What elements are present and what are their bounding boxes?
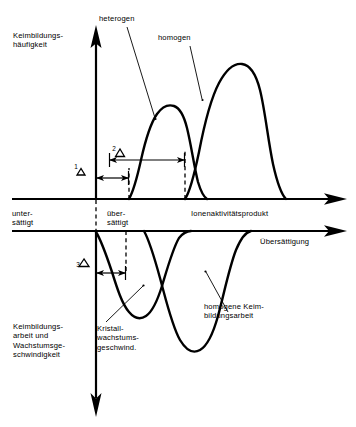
curve-label-heterogen: heterogen (99, 14, 135, 23)
delta3-triangle-icon (79, 259, 89, 267)
curve-label-homogen: homogen (158, 33, 191, 42)
delta1-label: 1 (74, 160, 78, 169)
lower-ordinate-label: Keimbildungs- arbeit und Wachstumsge- sc… (13, 322, 65, 360)
zone-label-supersaturated: über- sättigt (107, 209, 128, 228)
nucleation-diagram: Keimbildungs- häufigkeit heterogen homog… (0, 0, 356, 427)
delta1-subscript: 1 (74, 163, 78, 170)
upper-abscissa-axis (12, 193, 347, 205)
leader-heterogen (127, 27, 157, 120)
delta3-subscript: 3 (76, 261, 80, 268)
curve-homogen (185, 64, 286, 199)
delta2-triangle-icon (116, 149, 125, 157)
measure-delta2 (109, 153, 185, 167)
figure-canvas (0, 0, 356, 427)
measure-delta1 (96, 171, 129, 185)
delta2-label: 2 (112, 142, 116, 151)
lower-abscissa-label: Übersättigung (260, 237, 309, 246)
curve-heterogen (129, 105, 207, 199)
upper-ordinate-axis (91, 25, 102, 199)
delta3-label: 3 (76, 258, 80, 267)
curve-kristallwachstum (96, 231, 191, 318)
lower-abscissa-axis (12, 225, 347, 237)
zone-label-undersaturated: unter- sättigt (12, 209, 33, 228)
leader-kristallwachstum (106, 284, 145, 322)
delta1-triangle-icon (77, 169, 85, 176)
leader-homogen (190, 46, 204, 101)
curve-label-homogene-keimbildungsarbeit: homogene Keim- bildungsarbeit (204, 302, 264, 321)
delta2-subscript: 2 (112, 145, 116, 152)
curve-label-kristallwachstum: Kristall- wachstums- geschwind. (97, 324, 139, 352)
upper-ordinate-label: Keimbildungs- häufigkeit (13, 31, 63, 50)
upper-abscissa-label: Ionenaktivitätsprodukt (191, 209, 268, 218)
